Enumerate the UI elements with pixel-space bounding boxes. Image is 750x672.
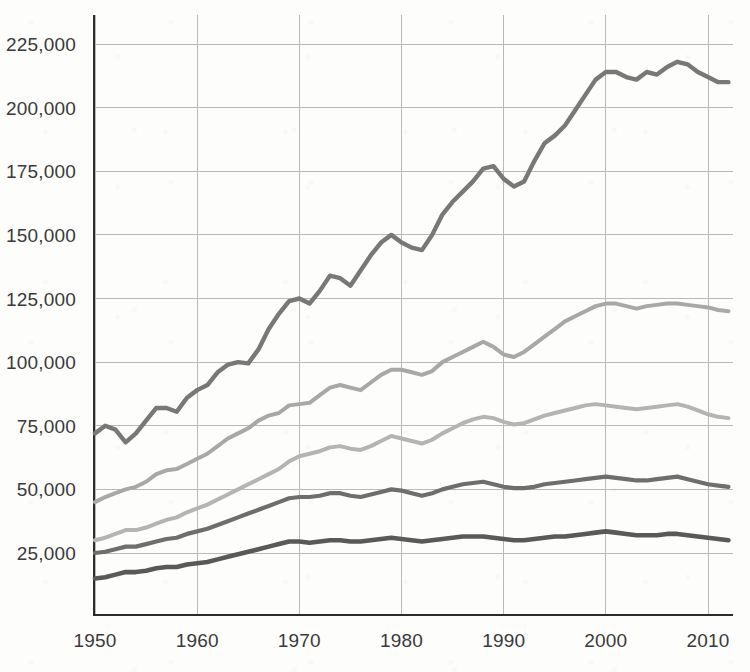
line-chart: 25,00050,00075,000100,000125,000150,0001… bbox=[0, 0, 750, 672]
series-line-3 bbox=[95, 404, 728, 540]
gridlines bbox=[94, 15, 733, 615]
x-axis-tick-label: 1970 bbox=[278, 630, 321, 651]
x-axis-tick-label: 1980 bbox=[380, 630, 423, 651]
y-axis-tick-label: 100,000 bbox=[6, 352, 76, 373]
chart-canvas: 25,00050,00075,000100,000125,000150,0001… bbox=[0, 0, 750, 672]
y-axis-tick-label: 225,000 bbox=[6, 34, 76, 55]
x-axis-tick-label: 1950 bbox=[73, 630, 116, 651]
y-axis-tick-label: 175,000 bbox=[6, 161, 76, 182]
y-axis-tick-label: 200,000 bbox=[6, 98, 76, 119]
y-axis-tick-label: 125,000 bbox=[6, 289, 76, 310]
y-axis-tick-label: 75,000 bbox=[17, 416, 76, 437]
y-axis-tick-labels: 25,00050,00075,000100,000125,000150,0001… bbox=[6, 34, 76, 564]
y-axis-tick-label: 50,000 bbox=[17, 479, 76, 500]
series-line-5 bbox=[95, 531, 728, 578]
x-axis-tick-label: 2010 bbox=[686, 630, 729, 651]
y-axis-tick-label: 150,000 bbox=[6, 225, 76, 246]
x-axis-tick-label: 2000 bbox=[584, 630, 627, 651]
axes bbox=[93, 15, 733, 615]
x-axis-tick-labels: 1950196019701980199020002010 bbox=[73, 630, 729, 651]
series-line-2 bbox=[95, 304, 728, 503]
series-group bbox=[95, 62, 728, 579]
x-axis-tick-label: 1990 bbox=[482, 630, 525, 651]
y-axis-tick-label: 25,000 bbox=[17, 543, 76, 564]
x-axis-tick-label: 1960 bbox=[176, 630, 219, 651]
series-line-1 bbox=[95, 62, 728, 442]
